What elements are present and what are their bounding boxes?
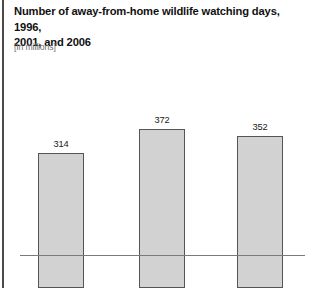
x-axis-line (20, 255, 305, 256)
bar-value-2001: 372 (139, 115, 185, 125)
bar-group-1996: 314 1996 (38, 33, 84, 288)
chart-content: Number of away-from-home wildlife watchi… (0, 0, 314, 288)
bar-1996[interactable] (38, 153, 84, 288)
chart-page: Number of away-from-home wildlife watchi… (0, 0, 314, 288)
bar-2006[interactable] (237, 136, 283, 288)
bar-2001[interactable] (139, 129, 185, 288)
bar-value-1996: 314 (38, 139, 84, 149)
bar-group-2001: 372 2001 (139, 33, 185, 288)
bar-value-2006: 352 (237, 122, 283, 132)
bar-group-2006: 352 2006 (237, 33, 283, 288)
chart-plot-area: 314 1996 372 2001 352 2006 (0, 0, 314, 288)
